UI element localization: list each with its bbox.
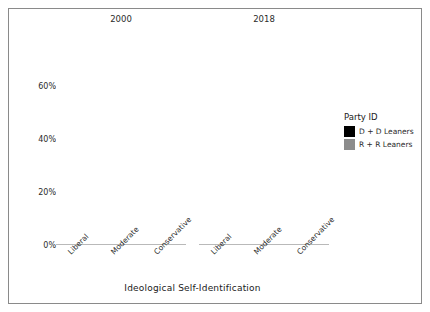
legend-item-dem[interactable]: D + D Leaners xyxy=(344,126,424,137)
y-tick-3: 60% xyxy=(26,82,56,91)
bar-group-container-2018 xyxy=(199,35,329,245)
y-tick-0: 0% xyxy=(26,241,56,250)
y-axis-ticks: 0% 20% 40% 60% xyxy=(26,0,56,312)
legend-label-rep: R + R Leaners xyxy=(359,140,412,149)
y-tick-2: 40% xyxy=(26,135,56,144)
legend-item-rep[interactable]: R + R Leaners xyxy=(344,139,424,150)
panel-title-2018: 2018 xyxy=(199,14,329,24)
legend-swatch-dem-icon xyxy=(344,126,355,137)
bar-group-container-2000 xyxy=(56,35,186,245)
legend-label-dem: D + D Leaners xyxy=(359,127,414,136)
legend-swatch-rep-icon xyxy=(344,139,355,150)
legend-title: Party ID xyxy=(344,112,424,122)
panel-title-2000: 2000 xyxy=(56,14,186,24)
panel-2018: 2018 Liberal Moderate Conservative xyxy=(199,35,329,245)
legend: Party ID D + D Leaners R + R Leaners xyxy=(344,112,424,152)
panel-2000: 2000 Liberal Moderate Conservative xyxy=(56,35,186,245)
x-axis-title: Ideological Self-Identification xyxy=(56,283,329,293)
chart-figure: Percent 0% 20% 40% 60% 2000 Liberal xyxy=(0,0,430,312)
y-tick-1: 20% xyxy=(26,188,56,197)
